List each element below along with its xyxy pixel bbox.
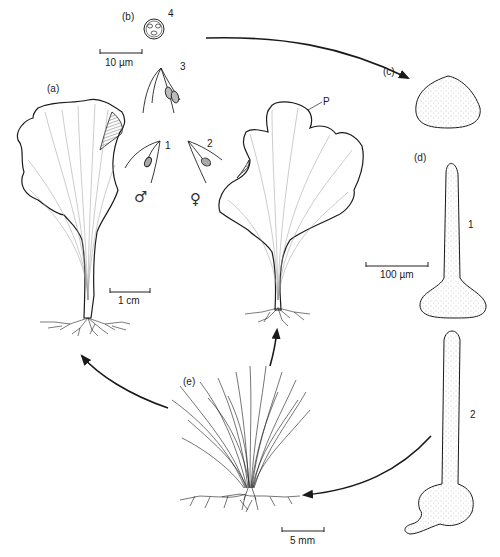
zygote-cell-icon [144, 19, 164, 39]
scale-bar-1cm-label: 1 cm [118, 295, 140, 306]
female-gamete-icon [188, 141, 222, 183]
scale-bar-10um [100, 49, 142, 54]
scale-bar-1cm [110, 288, 150, 293]
filamentous-sporophyte-illustration [172, 366, 310, 512]
female-symbol-icon: ♀ [190, 192, 201, 207]
male-thallus-illustration [17, 99, 130, 336]
scale-bar-100um [366, 262, 428, 267]
germling-cell-c [416, 76, 480, 128]
scale-bar-100um-label: 100 µm [380, 269, 414, 280]
arrow-germling-to-sporophyte [304, 436, 431, 495]
stage-number-male-gamete: 1 [165, 140, 171, 151]
female-thallus-illustration [219, 102, 363, 326]
arrow-sporophyte-to-female-thallus [270, 330, 277, 366]
stage-number-germling-2: 2 [470, 409, 476, 420]
panel-label-c: (c) [383, 66, 395, 77]
arrow-sporophyte-to-male-thallus [82, 356, 168, 408]
stage-number-fusion: 3 [180, 61, 186, 72]
scale-bar-10um-label: 10 µm [105, 57, 133, 68]
panel-label-b: (b) [122, 11, 134, 22]
annotation-p: P [323, 96, 330, 107]
stage-number-female-gamete: 2 [207, 138, 213, 149]
panel-label-e: (e) [183, 376, 195, 387]
gamete-fusion-icon [143, 68, 180, 113]
stage-number-zygote: 4 [168, 8, 174, 19]
male-symbol-icon: ♂ [134, 190, 147, 205]
stage-number-germling-1: 1 [468, 219, 474, 230]
scale-bar-5mm [282, 527, 324, 532]
life-cycle-diagram [0, 0, 500, 557]
scale-bar-5mm-label: 5 mm [290, 535, 315, 546]
germling-cell-d2 [405, 331, 473, 534]
panel-label-a: (a) [47, 83, 59, 94]
germling-cell-d1 [420, 164, 486, 319]
panel-label-d: (d) [414, 152, 426, 163]
male-gamete-icon [125, 141, 160, 183]
arrow-zygote-to-germling [206, 38, 408, 78]
